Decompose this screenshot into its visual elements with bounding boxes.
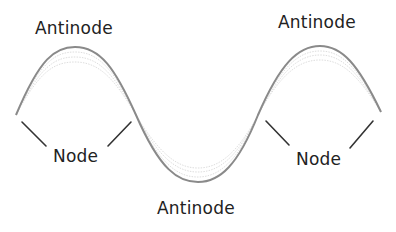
node-right-pointer-b (350, 121, 373, 148)
label-antinode-bottom: Antinode (157, 198, 235, 218)
label-antinode-top-left: Antinode (35, 18, 113, 38)
label-antinode-top-right: Antinode (278, 12, 356, 32)
node-left-pointer-b (108, 122, 131, 146)
label-node-right: Node (296, 149, 341, 169)
node-pointers (22, 121, 373, 148)
node-right-pointer-a (266, 121, 289, 145)
node-left-pointer-a (22, 122, 46, 146)
label-node-left: Node (53, 146, 98, 166)
